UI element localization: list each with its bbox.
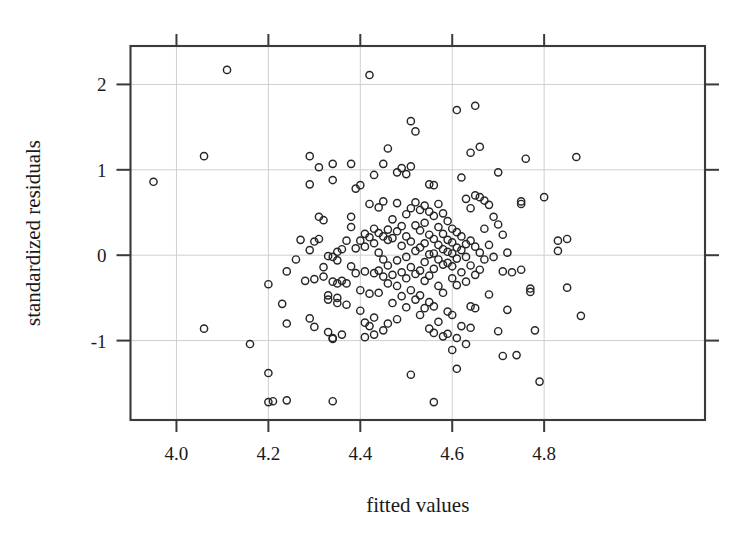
data-point	[467, 205, 474, 212]
data-point	[462, 195, 469, 202]
scatter-plot-canvas: 4.04.24.44.64.8 -1012 fitted values stan…	[0, 0, 755, 535]
data-point	[412, 199, 419, 206]
residual-scatter-figure: 4.04.24.44.64.8 -1012 fitted values stan…	[0, 0, 755, 535]
data-point	[573, 153, 580, 160]
data-point	[407, 238, 414, 245]
data-point	[407, 163, 414, 170]
data-point	[352, 245, 359, 252]
data-point	[361, 243, 368, 250]
data-point	[421, 219, 428, 226]
data-point	[453, 106, 460, 113]
data-point	[426, 231, 433, 238]
data-point	[389, 235, 396, 242]
data-point	[462, 340, 469, 347]
data-point	[370, 331, 377, 338]
data-point	[393, 257, 400, 264]
data-point	[375, 289, 382, 296]
data-point	[499, 231, 506, 238]
data-point	[504, 306, 511, 313]
data-point	[370, 240, 377, 247]
data-point	[430, 265, 437, 272]
data-point	[564, 235, 571, 242]
y-tick-label: -1	[91, 331, 107, 352]
data-point	[398, 293, 405, 300]
y-tick-label: 1	[97, 160, 107, 181]
data-point	[481, 256, 488, 263]
data-point	[320, 273, 327, 280]
data-point	[348, 263, 355, 270]
data-point	[361, 268, 368, 275]
data-point	[439, 289, 446, 296]
x-tick-label: 4.8	[532, 443, 556, 464]
data-point	[407, 264, 414, 271]
data-point	[366, 71, 373, 78]
y-tick-labels-group: -1012	[91, 74, 107, 351]
x-tick-label: 4.4	[348, 443, 372, 464]
data-point	[329, 176, 336, 183]
data-point	[453, 365, 460, 372]
data-point	[522, 155, 529, 162]
data-points-layer	[150, 66, 585, 405]
data-point	[536, 378, 543, 385]
data-point	[453, 281, 460, 288]
data-point	[380, 198, 387, 205]
data-point	[472, 305, 479, 312]
data-point	[384, 145, 391, 152]
data-point	[476, 143, 483, 150]
data-point	[426, 299, 433, 306]
data-point	[311, 323, 318, 330]
data-point	[306, 315, 313, 322]
data-point	[435, 241, 442, 248]
data-point	[269, 398, 276, 405]
data-point	[430, 329, 437, 336]
data-point	[306, 181, 313, 188]
data-point	[329, 398, 336, 405]
data-point	[481, 225, 488, 232]
data-point	[554, 247, 561, 254]
data-point	[389, 271, 396, 278]
data-point	[439, 210, 446, 217]
data-point	[343, 237, 350, 244]
data-point	[302, 277, 309, 284]
data-point	[513, 352, 520, 359]
data-point	[329, 278, 336, 285]
y-tick-label: 0	[97, 245, 107, 266]
data-point	[531, 327, 538, 334]
data-point	[435, 282, 442, 289]
data-point	[407, 371, 414, 378]
data-point	[403, 304, 410, 311]
data-point	[426, 272, 433, 279]
y-tick-label: 2	[97, 74, 107, 95]
data-point	[403, 275, 410, 282]
data-point	[495, 221, 502, 228]
data-point	[398, 223, 405, 230]
data-point	[150, 178, 157, 185]
data-point	[384, 226, 391, 233]
data-point	[416, 206, 423, 213]
data-point	[458, 269, 465, 276]
data-point	[472, 192, 479, 199]
data-point	[435, 223, 442, 230]
data-point	[476, 266, 483, 273]
data-point	[416, 227, 423, 234]
data-point	[508, 269, 515, 276]
data-point	[412, 296, 419, 303]
data-point	[366, 290, 373, 297]
data-point	[435, 318, 442, 325]
data-point	[499, 352, 506, 359]
data-point	[462, 278, 469, 285]
data-point	[458, 174, 465, 181]
data-point	[472, 102, 479, 109]
data-point	[393, 316, 400, 323]
data-point	[348, 213, 355, 220]
data-point	[485, 291, 492, 298]
data-point	[430, 182, 437, 189]
data-point	[370, 171, 377, 178]
data-point	[490, 253, 497, 260]
data-point	[380, 327, 387, 334]
data-point	[426, 325, 433, 332]
data-point	[407, 287, 414, 294]
data-point	[279, 300, 286, 307]
data-point	[366, 200, 373, 207]
data-point	[485, 201, 492, 208]
